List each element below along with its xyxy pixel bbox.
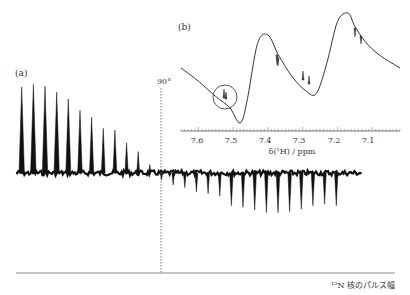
figure: (a) 90° ¹⁵N 核のパルス幅 (b) 7.6 7.5 7.4 7.3 7… [0,0,410,295]
x-axis-a-label: ¹⁵N 核のパルス幅 [331,280,395,290]
pulse-peak [19,87,24,173]
pulse-peak [241,173,244,207]
panel-a-label: (a) [15,68,27,78]
pulse-peak [54,92,59,173]
x-axis-b-ticks [181,127,400,131]
pulse-peak [137,152,140,174]
tick-label: 7.3 [293,136,306,145]
multiplet-spike [302,71,304,80]
pulse-peak [42,86,47,173]
multiplet-spike [354,28,356,37]
pulse-peak [125,143,128,173]
panel-b-inset: (b) 7.6 7.5 7.4 7.3 7.2 7.1 δ(¹H) / ppm [178,13,400,156]
multiplet-spike [277,58,279,66]
x-axis-b-label: δ(¹H) / ppm [269,147,316,156]
nmr-spectrum-curve [181,13,400,123]
pulse-peak [101,128,105,173]
tick-label: 7.2 [328,136,341,145]
tick-label: 7.6 [191,136,204,145]
pulse-peak [90,117,94,173]
pulse-peak [335,173,338,206]
pulse-peak [311,173,314,206]
pulse-peak [276,173,280,213]
pulse-peak [300,173,303,209]
pulse-peak [265,173,269,213]
nmr-multiplets [223,28,362,99]
pulse-peak [78,110,83,173]
pulse-peak [323,173,326,204]
multiplet-spike [223,89,225,98]
panel-a: (a) 90° ¹⁵N 核のパルス幅 [15,68,395,290]
pulse-peak [113,130,117,173]
tick-label: 7.1 [362,136,375,145]
pulse-peak [31,84,36,173]
tick-label: 7.4 [259,136,272,145]
multiplet-spike [360,36,362,44]
tick-label: 7.5 [225,136,238,145]
ninety-degree-label: 90° [157,77,171,86]
multiplet-spike [225,92,227,99]
pulse-peak [66,99,71,173]
panel-b-label: (b) [178,22,191,32]
pulse-peak [253,173,256,210]
multiplet-spike [308,76,310,84]
pulse-peak [230,173,233,206]
pulse-array-baseline [16,171,362,176]
pulse-peak [288,173,292,212]
